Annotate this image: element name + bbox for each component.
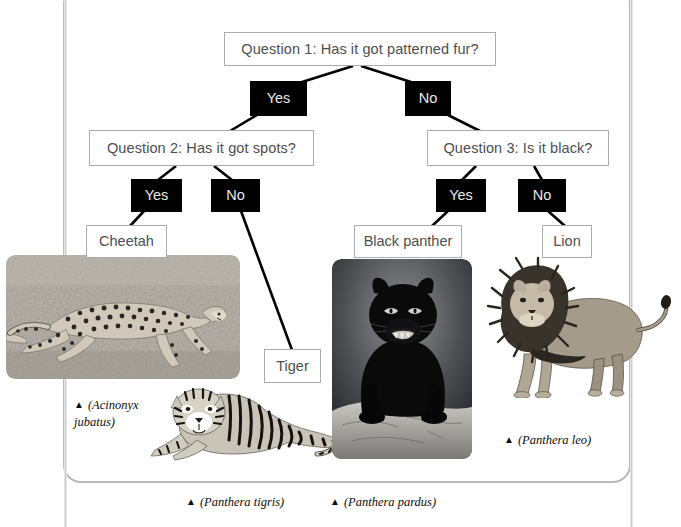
figure-page: Question 1: Has it got patterned fur? Ye…: [0, 0, 681, 527]
answer-q2-yes-box[interactable]: Yes: [131, 179, 182, 212]
tiger-caption: ▲(Panthera tigris): [186, 477, 284, 511]
result-lion-box[interactable]: Lion: [542, 225, 592, 258]
answer-q2-no-box[interactable]: No: [211, 179, 260, 212]
black-panther-caption-text: (Panthera pardus): [344, 495, 436, 509]
lion-caption-text: (Panthera leo): [518, 433, 591, 447]
answer-q1-yes-box[interactable]: Yes: [250, 81, 307, 116]
caption-marker-icon: ▲: [186, 496, 196, 507]
result-black-panther-box[interactable]: Black panther: [354, 225, 462, 258]
question-3-box[interactable]: Question 3: Is it black?: [427, 130, 609, 166]
lion-photo: [486, 256, 676, 398]
result-tiger-box[interactable]: Tiger: [264, 349, 321, 383]
answer-q1-no-box[interactable]: No: [405, 81, 451, 116]
caption-marker-icon: ▲: [330, 496, 340, 507]
cheetah-caption: ▲(Acinonyx jubatus): [74, 380, 184, 431]
black-panther-caption: ▲(Panthera pardus): [330, 477, 436, 511]
answer-q3-no-box[interactable]: No: [518, 179, 566, 212]
question-1-box[interactable]: Question 1: Has it got patterned fur?: [224, 32, 496, 66]
tiger-caption-text: (Panthera tigris): [200, 495, 284, 509]
result-cheetah-box[interactable]: Cheetah: [86, 225, 167, 258]
caption-marker-icon: ▲: [74, 399, 84, 410]
black-panther-photo: [332, 259, 472, 459]
lion-caption: ▲(Panthera leo): [504, 415, 591, 449]
caption-marker-icon: ▲: [504, 434, 514, 445]
answer-q3-yes-box[interactable]: Yes: [436, 179, 486, 212]
cheetah-photo: [6, 255, 240, 379]
question-2-box[interactable]: Question 2: Has it got spots?: [89, 130, 314, 166]
